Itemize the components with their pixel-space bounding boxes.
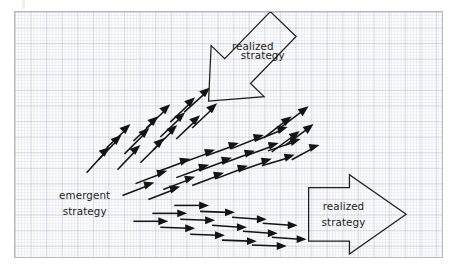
vector-arrow: [252, 242, 287, 250]
vector-arrow: [153, 125, 177, 150]
vector-arrow: [99, 135, 122, 160]
strategy-diagram-figure: realized strategy realized strategy emer…: [0, 0, 461, 276]
realized-bottom-line1: realized: [323, 200, 365, 212]
realized-top-line2: strategy: [241, 50, 285, 62]
vector-arrow: [176, 164, 209, 178]
arrow-cluster-middle: [122, 126, 300, 199]
arrow-cluster-upper: [87, 87, 217, 172]
emergent-strategy-label: emergent strategy: [59, 189, 110, 217]
arrow-cluster-lower: [133, 201, 306, 250]
vector-arrow: [192, 172, 224, 186]
scan-artifact: [22, 0, 25, 9]
vector-arrow: [272, 235, 307, 243]
vector-arrow: [87, 147, 110, 173]
vector-arrow: [222, 237, 257, 245]
vector-arrow: [148, 186, 180, 200]
vector-arrow: [163, 176, 195, 190]
vector-arrow: [243, 229, 278, 237]
vector-arrow: [146, 104, 170, 128]
vector-arrow: [174, 201, 209, 209]
vector-arrow: [199, 157, 232, 171]
diagram-canvas: realized strategy realized strategy emer…: [15, 12, 442, 257]
emergent-strategy-line1: emergent: [59, 189, 110, 201]
vector-arrow: [135, 170, 167, 184]
vector-arrow: [182, 149, 215, 163]
arrow-cluster-upper-right-fan: [264, 106, 320, 160]
vector-arrow: [216, 165, 248, 179]
vector-arrow: [192, 103, 217, 128]
vector-arrow: [212, 223, 247, 231]
vector-arrow: [263, 221, 298, 229]
vector-arrow: [122, 182, 154, 196]
vector-arrow: [231, 134, 264, 149]
vector-arrow: [280, 106, 309, 128]
realized-strategy-arrow-bottom: realized strategy: [309, 175, 407, 254]
vector-arrow: [160, 224, 195, 232]
vector-arrow: [133, 217, 168, 225]
graph-paper-panel: realized strategy realized strategy emer…: [14, 11, 443, 258]
realized-strategy-arrow-top: realized strategy: [182, 12, 310, 127]
vector-arrow: [157, 158, 190, 172]
vector-arrow: [292, 144, 320, 160]
vector-arrow: [180, 216, 215, 224]
realized-bottom-line2: strategy: [321, 216, 365, 228]
vector-arrow: [255, 126, 288, 141]
vector-arrow: [184, 87, 210, 112]
vector-arrow: [190, 231, 225, 239]
vector-arrow: [222, 150, 255, 164]
vector-arrow: [107, 124, 131, 148]
vector-arrow: [206, 142, 239, 156]
vector-arrow: [232, 215, 267, 223]
vector-arrow: [200, 208, 235, 216]
emergent-strategy-line2: strategy: [63, 205, 107, 217]
vector-arrow: [152, 209, 187, 217]
